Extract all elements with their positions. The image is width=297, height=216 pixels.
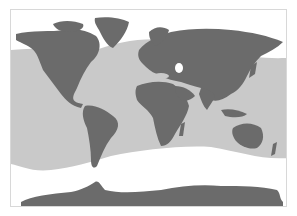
water-caspian <box>175 63 183 73</box>
land-antarctica <box>21 182 283 207</box>
map-frame <box>10 9 287 207</box>
water-mediterranean <box>153 73 169 79</box>
world-map <box>11 10 287 207</box>
